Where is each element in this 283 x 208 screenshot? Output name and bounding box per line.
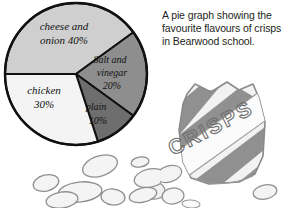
pie-label-salt-and-vinegar-line1: Salt and bbox=[93, 54, 127, 65]
scattered-crisps bbox=[0, 150, 160, 208]
pie-chart: cheese and onion 40% chicken 30% Salt an… bbox=[0, 0, 155, 155]
pie-label-chicken-line1: chicken bbox=[27, 84, 61, 96]
pie-label-salt-and-vinegar-line2: vinegar bbox=[97, 67, 128, 78]
pie-label-salt-and-vinegar-line3: 20% bbox=[103, 80, 121, 91]
crisps-illustration: CRISPS bbox=[143, 78, 283, 208]
pie-label-cheese-and-onion-line2: onion 40% bbox=[40, 34, 88, 46]
pie-label-chicken-line2: 30% bbox=[33, 98, 54, 110]
pie-label-cheese-and-onion-line1: cheese and bbox=[40, 20, 89, 32]
pie-graph-worksheet: cheese and onion 40% chicken 30% Salt an… bbox=[0, 0, 283, 208]
pie-label-plain-line2: 10% bbox=[89, 115, 107, 126]
caption-text: A pie graph showing the favourite flavou… bbox=[162, 9, 282, 49]
pie-label-plain-line1: plain bbox=[85, 101, 107, 112]
